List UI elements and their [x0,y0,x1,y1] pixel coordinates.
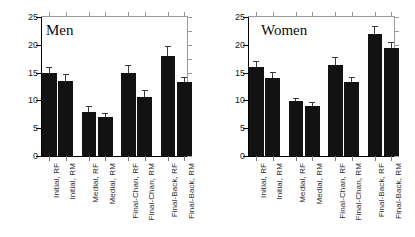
y-axis-tick-label: 5 [240,124,245,133]
x-axis-tick [49,156,50,161]
y-axis-tick-label: 0 [33,152,38,161]
y-axis-tick-label: 10 [28,96,38,105]
x-axis-tick [256,156,257,161]
error-bar-cap [388,42,394,43]
error-bar [351,78,352,82]
error-bar [167,47,168,56]
error-bar-cap [332,57,338,58]
y-axis-minor-tick [187,17,192,18]
x-axis-label: Final-Chan, RM [355,163,363,220]
bar [161,56,176,156]
plot-area-men: 0510152025 [42,17,187,156]
x-axis-line [41,156,188,157]
x-axis-label: Medial, RM [316,163,324,204]
y-axis-minor-tick [394,45,399,46]
bar [328,65,343,156]
x-axis-label: Final-Back, RF [171,163,179,217]
x-axis-tick-top [66,12,67,17]
error-bar-cap [181,77,187,78]
x-axis-tick-top [273,12,274,17]
bar [82,112,97,156]
error-bar [312,103,313,106]
x-axis-tick [145,156,146,161]
y-axis-minor-tick [394,31,399,32]
y-axis-tick-label: 25 [235,13,245,22]
x-axis-label: Initial, RF [260,163,268,198]
bar [121,73,136,156]
x-axis-label: Medial, RF [299,163,307,203]
y-axis-minor-tick [394,17,399,18]
x-axis-tick-top [49,12,50,17]
error-bar [184,78,185,82]
x-axis-tick [273,156,274,161]
x-axis-label: Final-Chan, RM [148,163,156,220]
error-bar-cap [102,113,108,114]
x-axis-tick-top [256,12,257,17]
error-bar [128,66,129,73]
x-axis-label: Initial, RM [276,163,284,200]
bar [265,78,280,156]
x-axis-tick [312,156,313,161]
y-axis-tick-label: 20 [28,40,38,49]
error-bar-cap [86,106,92,107]
error-bar-cap [165,46,171,47]
x-axis-label: Initial, RF [53,163,61,198]
x-axis-label: Final-Back, RM [188,163,196,219]
y-axis-tick-label: 5 [33,124,38,133]
x-axis-tick-top [296,12,297,17]
chart-panel-women: Women 0510152025 Initial, RFInitial, RMM… [207,0,414,237]
x-axis-tick-top [89,12,90,17]
error-bar-cap [46,67,52,68]
x-axis-tick [168,156,169,161]
bar [42,73,57,156]
error-bar [65,75,66,81]
chart-panel-men: Men 0510152025 Initial, RFInitial, RMMed… [0,0,207,237]
bar [249,67,264,156]
error-bar-cap [270,72,276,73]
error-bar [272,73,273,77]
bar [344,82,359,157]
x-axis-tick [184,156,185,161]
error-bar [88,107,89,112]
y-axis-minor-tick [187,31,192,32]
bar [137,97,152,156]
x-axis-line-top [248,16,395,17]
x-axis-tick-top [145,12,146,17]
x-axis-line-top [41,16,188,17]
bar [384,48,399,156]
x-axis-label: Final-Chan, RF [132,163,140,219]
x-axis-tick [335,156,336,161]
error-bar [295,99,296,101]
error-bar [105,114,106,117]
y-axis-minor-tick [187,59,192,60]
y-axis-minor-tick [187,73,192,74]
error-bar-cap [142,90,148,91]
bar [98,117,113,156]
bar [177,82,192,156]
y-axis-minor-tick [187,156,192,157]
x-axis-tick [128,156,129,161]
bar [289,101,304,156]
error-bar [374,27,375,34]
bar [368,34,383,156]
error-bar [256,62,257,67]
error-bar [335,58,336,65]
x-axis-tick [352,156,353,161]
x-axis-tick [296,156,297,161]
x-axis-tick-top [391,12,392,17]
x-axis-tick-top [352,12,353,17]
bar [305,106,320,156]
error-bar-cap [63,74,69,75]
error-bar-cap [372,26,378,27]
figure: Men 0510152025 Initial, RFInitial, RMMed… [0,0,415,237]
y-axis-minor-tick [187,45,192,46]
plot-area-women: 0510152025 [249,17,394,156]
x-axis-tick-top [335,12,336,17]
error-bar [49,68,50,74]
x-axis-line [248,156,395,157]
error-bar-cap [309,102,315,103]
x-axis-tick [105,156,106,161]
x-axis-label: Final-Back, RM [395,163,403,219]
x-axis-label: Final-Back, RF [378,163,386,217]
x-axis-tick [375,156,376,161]
